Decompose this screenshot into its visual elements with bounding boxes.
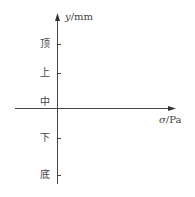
y-axis-unit: /mm: [71, 11, 93, 22]
tick-label-upper: 上: [40, 68, 50, 78]
x-axis-unit: /Pa: [166, 114, 182, 125]
axes-diagram: [0, 0, 195, 197]
x-axis-var: σ: [159, 114, 166, 125]
x-axis-arrow-icon: [168, 106, 176, 111]
tick-label-middle: 中: [40, 97, 50, 107]
y-axis-arrow-icon: [55, 13, 60, 21]
x-axis-label: σ/Pa: [159, 115, 181, 125]
y-axis-label: y/mm: [65, 12, 93, 22]
tick-label-lower: 下: [40, 133, 50, 143]
tick-label-bottom: 底: [40, 170, 50, 180]
tick-label-top: 顶: [40, 39, 50, 49]
